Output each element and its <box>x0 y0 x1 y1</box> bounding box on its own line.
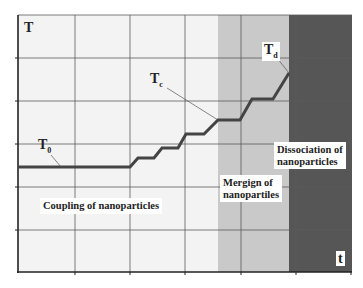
td-annotation: Td <box>262 42 280 61</box>
t0-main: T <box>38 137 47 152</box>
y-axis-label: T <box>24 20 33 35</box>
tc-main: T <box>150 71 159 86</box>
t0-sub: 0 <box>47 146 51 155</box>
merging-label: Mergign of nanopartiles <box>220 175 282 202</box>
tc-annotation: Tc <box>150 71 163 90</box>
dissociation-label-line2: nanoparticles <box>277 156 343 168</box>
dissociation-label-line1: Dissociation of <box>277 144 343 156</box>
merging-label-line2: nanopartiles <box>223 189 279 201</box>
merging-label-line1: Mergign of <box>223 177 279 189</box>
x-axis-label: t <box>336 251 345 266</box>
dissociation-label: Dissociation of nanoparticles <box>274 142 346 169</box>
td-main: T <box>264 42 273 57</box>
coupling-label: Coupling of nanoparticles <box>40 198 162 214</box>
td-sub: d <box>273 51 277 60</box>
tc-sub: c <box>159 80 163 89</box>
t0-annotation: T0 <box>38 137 51 156</box>
